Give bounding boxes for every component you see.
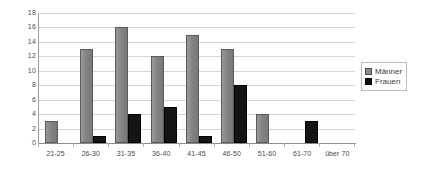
x-label-61-70: 61-70 xyxy=(285,149,320,163)
bar-maenner-26-30[interactable] xyxy=(80,49,93,143)
y-tick-label: 4 xyxy=(2,110,36,118)
legend-label-maenner: Männer xyxy=(375,67,402,76)
chart-legend: Männer Frauen xyxy=(361,62,407,91)
bar-group-21-25 xyxy=(38,13,73,143)
x-axis-labels: 21-25 26-30 31-35 36-40 41-45 46-50 51-6… xyxy=(38,149,355,163)
x-tick xyxy=(108,143,109,147)
y-tick-label: 2 xyxy=(2,125,36,133)
bar-group-61-70 xyxy=(285,13,320,143)
bar-maenner-21-25[interactable] xyxy=(45,121,58,143)
y-tick-label: 10 xyxy=(2,67,36,75)
legend-item-frauen[interactable]: Frauen xyxy=(365,77,402,86)
x-tick xyxy=(284,143,285,147)
y-axis-tick-labels: 18 16 14 12 10 8 6 4 2 0 xyxy=(0,0,36,173)
bar-group-51-60 xyxy=(249,13,284,143)
bar-group-36-40 xyxy=(144,13,179,143)
bar-frauen-26-30[interactable] xyxy=(93,136,106,143)
x-tick xyxy=(143,143,144,147)
x-label-41-45: 41-45 xyxy=(179,149,214,163)
legend-swatch-frauen-icon xyxy=(365,78,372,85)
x-tick xyxy=(319,143,320,147)
x-label-21-25: 21-25 xyxy=(38,149,73,163)
bar-group-ueber-70 xyxy=(320,13,355,143)
x-tick xyxy=(354,143,355,147)
bar-frauen-36-40[interactable] xyxy=(164,107,177,143)
y-tick-label: 6 xyxy=(2,96,36,104)
bar-frauen-61-70[interactable] xyxy=(305,121,318,143)
bar-maenner-31-35[interactable] xyxy=(115,27,128,143)
x-label-51-60: 51-60 xyxy=(249,149,284,163)
bar-group-46-50 xyxy=(214,13,249,143)
x-tick xyxy=(38,143,39,147)
x-label-36-40: 36-40 xyxy=(144,149,179,163)
x-tick xyxy=(179,143,180,147)
bar-chart: 18 16 14 12 10 8 6 4 2 0 xyxy=(0,0,431,173)
legend-item-maenner[interactable]: Männer xyxy=(365,67,402,76)
x-tick xyxy=(214,143,215,147)
x-label-46-50: 46-50 xyxy=(214,149,249,163)
bar-maenner-36-40[interactable] xyxy=(151,56,164,143)
legend-swatch-maenner-icon xyxy=(365,68,372,75)
y-tick-label: 0 xyxy=(2,139,36,147)
x-label-26-30: 26-30 xyxy=(73,149,108,163)
bar-groups xyxy=(38,13,355,143)
bar-maenner-51-60[interactable] xyxy=(256,114,269,143)
y-tick-label: 8 xyxy=(2,81,36,89)
bar-frauen-41-45[interactable] xyxy=(199,136,212,143)
bar-frauen-31-35[interactable] xyxy=(128,114,141,143)
bar-frauen-46-50[interactable] xyxy=(234,85,247,143)
x-label-31-35: 31-35 xyxy=(108,149,143,163)
x-label-ueber-70: über 70 xyxy=(320,149,355,163)
y-tick-label: 18 xyxy=(2,9,36,17)
bar-group-31-35 xyxy=(108,13,143,143)
bar-group-41-45 xyxy=(179,13,214,143)
y-tick-label: 12 xyxy=(2,52,36,60)
x-tick xyxy=(73,143,74,147)
x-axis-ticks xyxy=(38,143,355,147)
x-tick xyxy=(249,143,250,147)
y-tick-label: 16 xyxy=(2,23,36,31)
bar-maenner-46-50[interactable] xyxy=(221,49,234,143)
bar-group-26-30 xyxy=(73,13,108,143)
bar-maenner-41-45[interactable] xyxy=(186,35,199,143)
legend-label-frauen: Frauen xyxy=(375,77,400,86)
y-tick-label: 14 xyxy=(2,38,36,46)
